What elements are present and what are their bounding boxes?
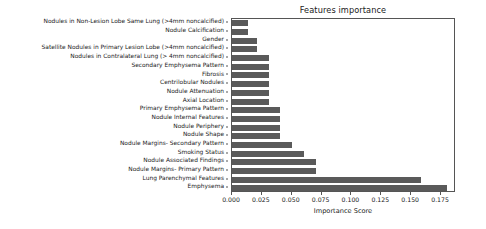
- y-axis-tick-mark: [226, 31, 229, 32]
- y-axis-tick-mark: [226, 57, 229, 58]
- bar: [232, 177, 421, 183]
- bar-row: [232, 167, 454, 176]
- y-axis-tick-label-row: Fibrosis: [0, 70, 228, 79]
- bar-row: [232, 71, 454, 80]
- x-axis-tick-label: 0.050: [282, 196, 300, 203]
- y-axis-tick-label-row: Lung Parenchymal Features: [0, 174, 228, 183]
- x-axis-tick-mark: [261, 192, 262, 195]
- bar: [232, 38, 257, 44]
- y-axis-tick-label-row: Nodule Shape: [0, 131, 228, 140]
- x-axis-tick-label: 0.150: [401, 196, 419, 203]
- y-axis-tick-label: Nodules in Non-Lesion Lobe Same Lung (>4…: [43, 19, 228, 25]
- y-axis-tick-label: Nodule Margins- Secondary Pattern: [120, 141, 228, 147]
- bar-row: [232, 141, 454, 150]
- x-axis-tick-label: 0.075: [312, 196, 330, 203]
- bar-row: [232, 97, 454, 106]
- y-axis-tick-label-row: Emphysema: [0, 183, 228, 192]
- y-axis-tick-label-row: Nodule Internal Features: [0, 114, 228, 123]
- y-axis-tick-label: Nodule Shape: [183, 132, 228, 138]
- y-axis-tick-label: Gender: [202, 37, 228, 43]
- y-axis-tick-label-row: Satellite Nodules in Primary Lesion Lobe…: [0, 44, 228, 53]
- bar-row: [232, 106, 454, 115]
- y-axis-tick-label: Emphysema: [188, 184, 228, 190]
- y-axis-tick-label: Satellite Nodules in Primary Lesion Lobe…: [42, 45, 228, 51]
- bar-row: [232, 115, 454, 124]
- bar-row: [232, 80, 454, 89]
- y-axis-tick-mark: [226, 100, 229, 101]
- y-axis-tick-label: Centrilobular Nodules: [160, 80, 228, 86]
- y-axis-tick-label: Nodule Margins- Primary Pattern: [128, 167, 228, 173]
- y-axis-tick-mark: [226, 161, 229, 162]
- y-axis-tick-label-row: Nodule Margins- Secondary Pattern: [0, 140, 228, 149]
- chart-title: Features importance: [231, 5, 455, 15]
- y-axis-tick-mark: [226, 74, 229, 75]
- bar: [232, 107, 280, 113]
- x-axis-tick-label: 0.125: [371, 196, 389, 203]
- bar: [232, 81, 269, 87]
- y-axis-tick-label: Primary Emphysema Pattern: [140, 106, 228, 112]
- y-axis-tick-mark: [226, 135, 229, 136]
- bar: [232, 116, 280, 122]
- x-axis: 0.0000.0250.0500.0750.1000.1250.1500.175: [231, 192, 455, 206]
- bar: [232, 90, 269, 96]
- bar: [232, 151, 304, 157]
- y-axis-tick-mark: [226, 117, 229, 118]
- bar: [232, 64, 269, 70]
- bar-row: [232, 45, 454, 54]
- bar-row: [232, 184, 454, 192]
- y-axis-tick-label-row: Nodules in Contralateral Lung (> 4mm non…: [0, 53, 228, 62]
- y-axis-tick-mark: [226, 65, 229, 66]
- y-axis-tick-label-row: Nodule Associated Findings: [0, 157, 228, 166]
- y-axis-tick-mark: [226, 48, 229, 49]
- x-axis-tick-label: 0.025: [252, 196, 270, 203]
- y-axis-tick-label-row: Nodule Periphery: [0, 122, 228, 131]
- x-axis-tick-label: 0.175: [431, 196, 449, 203]
- y-axis-tick-label: Fibrosis: [202, 72, 228, 78]
- x-axis-tick-mark: [291, 192, 292, 195]
- bar: [232, 185, 447, 191]
- y-axis-tick-mark: [226, 22, 229, 23]
- x-axis-tick-label: 0.100: [342, 196, 360, 203]
- y-axis-tick-label: Axial Location: [183, 98, 228, 104]
- bar: [232, 133, 280, 139]
- y-axis-tick-label: Nodule Internal Features: [151, 115, 228, 121]
- y-axis-tick-mark: [226, 126, 229, 127]
- y-axis-tick-label-row: Nodule Attenuation: [0, 88, 228, 97]
- y-axis-tick-label-row: Nodule Calcification: [0, 27, 228, 36]
- bar: [232, 168, 316, 174]
- y-axis-tick-label-row: Axial Location: [0, 96, 228, 105]
- x-axis-tick-mark: [380, 192, 381, 195]
- y-axis-tick-mark: [226, 152, 229, 153]
- y-axis-tick-label-row: Smoking Status: [0, 148, 228, 157]
- bar-row: [232, 132, 454, 141]
- y-axis-tick-mark: [226, 109, 229, 110]
- y-axis-tick-label: Nodules in Contralateral Lung (> 4mm non…: [70, 54, 228, 60]
- x-axis-title: Importance Score: [231, 207, 455, 215]
- bar-row: [232, 19, 454, 28]
- y-axis-tick-label: Lung Parenchymal Features: [143, 176, 228, 182]
- features-importance-chart-figure: Features importance Nodules in Non-Lesio…: [0, 0, 486, 229]
- y-axis-tick-mark: [226, 170, 229, 171]
- bar: [232, 29, 248, 35]
- plot-area: [231, 18, 455, 192]
- bar-row: [232, 28, 454, 37]
- bar-row: [232, 54, 454, 63]
- bar-row: [232, 89, 454, 98]
- bar-row: [232, 123, 454, 132]
- bar-row: [232, 149, 454, 158]
- y-axis-tick-label: Nodule Attenuation: [167, 89, 228, 95]
- y-axis-tick-mark: [226, 83, 229, 84]
- y-axis-labels: Nodules in Non-Lesion Lobe Same Lung (>4…: [0, 18, 228, 192]
- x-axis-tick-mark: [321, 192, 322, 195]
- bar: [232, 99, 269, 105]
- y-axis-tick-mark: [226, 178, 229, 179]
- y-axis-tick-label: Secondary Emphysema Pattern: [131, 63, 228, 69]
- x-axis-tick-mark: [440, 192, 441, 195]
- bar: [232, 142, 292, 148]
- x-axis-tick-mark: [231, 192, 232, 195]
- x-axis-tick-label: 0.000: [222, 196, 240, 203]
- bars-layer: [232, 19, 454, 191]
- y-axis-tick-label-row: Nodule Margins- Primary Pattern: [0, 166, 228, 175]
- bar: [232, 159, 316, 165]
- bar: [232, 20, 248, 26]
